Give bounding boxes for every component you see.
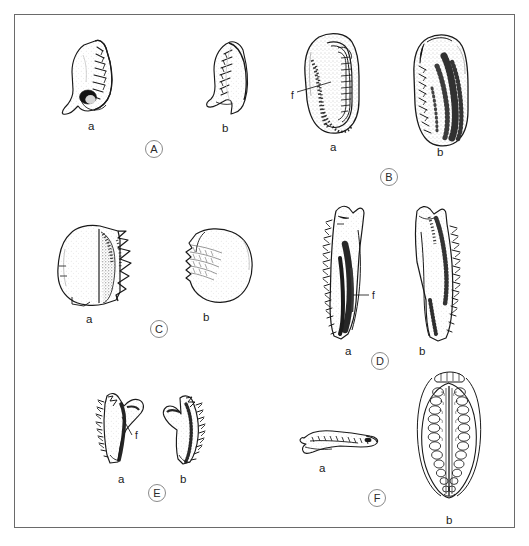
panel-A-specimen-b [207, 42, 248, 114]
specimen-label-D-a: a [345, 345, 352, 357]
panel-B-specimen-a [297, 34, 359, 134]
panel-B-specimen-b [414, 35, 468, 146]
panel-E-specimen-b [163, 396, 205, 464]
feature-label-B-a: f [291, 90, 294, 101]
illustration-plate: a b A f a b B a b C f a b D f a b E a b … [0, 0, 529, 546]
specimen-label-E-b: b [180, 473, 187, 485]
specimen-label-F-b: b [446, 514, 453, 526]
plate-artwork [0, 0, 529, 546]
specimen-label-E-a: a [118, 473, 125, 485]
specimen-label-A-b: b [222, 122, 229, 134]
panel-C-specimen-b [186, 229, 252, 303]
panel-E-specimen-a [96, 394, 143, 463]
panel-letter-B: B [380, 168, 398, 186]
panel-letter-F: F [368, 489, 386, 507]
feature-label-E-a: f [135, 430, 138, 441]
specimen-label-B-a: a [330, 141, 337, 153]
specimen-label-C-a: a [86, 313, 93, 325]
panel-D-specimen-b [416, 207, 461, 341]
specimen-label-A-a: a [88, 120, 95, 132]
panel-letter-A: A [145, 140, 163, 158]
panel-A-specimen-a [62, 40, 112, 114]
specimen-label-C-b: b [203, 311, 210, 323]
panel-letter-C: C [150, 320, 168, 338]
specimen-label-D-b: b [419, 345, 426, 357]
panel-D-specimen-a [323, 206, 369, 339]
feature-label-D-a: f [372, 290, 375, 301]
specimen-label-B-b: b [437, 146, 444, 158]
panel-F-specimen-a [300, 431, 378, 454]
panel-F-specimen-b [417, 372, 480, 498]
specimen-label-F-a: a [319, 462, 326, 474]
panel-letter-D: D [371, 352, 389, 370]
panel-C-specimen-a [58, 225, 131, 306]
panel-letter-E: E [148, 484, 166, 502]
